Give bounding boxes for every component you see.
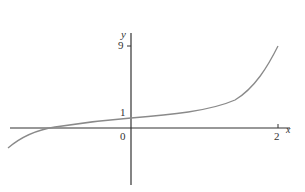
curve-line (8, 46, 278, 148)
y-tick-label-9: 9 (118, 40, 124, 51)
x-axis-label: x (286, 125, 290, 135)
x-tick-label-2: 2 (274, 131, 280, 142)
y-tick-label-1: 1 (120, 107, 126, 118)
origin-label: 0 (120, 131, 126, 142)
chart-canvas (0, 0, 305, 192)
